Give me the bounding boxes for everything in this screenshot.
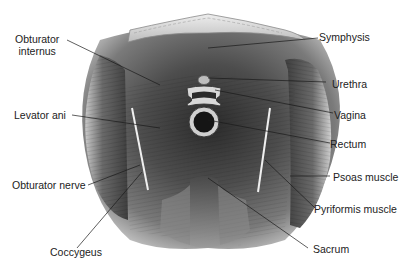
label-rectum: Rectum bbox=[330, 138, 366, 150]
label-symphysis: Symphysis bbox=[319, 31, 370, 43]
label-obturator-internus-line1: Obturator bbox=[15, 33, 59, 45]
sacrum-shape bbox=[190, 176, 220, 248]
anatomy-figure: ~ Obturator internus Levator ani Obturat… bbox=[0, 0, 413, 272]
label-vagina: Vagina bbox=[334, 109, 366, 121]
label-levator-ani: Levator ani bbox=[14, 109, 66, 121]
artist-signature: ~ bbox=[238, 243, 241, 248]
label-obturator-internus: Obturator internus bbox=[15, 33, 59, 57]
label-obturator-nerve: Obturator nerve bbox=[12, 179, 86, 191]
label-obturator-internus-line2: internus bbox=[15, 45, 59, 57]
label-psoas-muscle: Psoas muscle bbox=[333, 171, 398, 183]
urethra-shape bbox=[198, 76, 210, 85]
label-sacrum: Sacrum bbox=[313, 243, 349, 255]
label-urethra: Urethra bbox=[332, 78, 367, 90]
label-pyriformis-muscle: Pyriformis muscle bbox=[314, 203, 397, 215]
label-coccygeus: Coccygeus bbox=[50, 246, 102, 258]
